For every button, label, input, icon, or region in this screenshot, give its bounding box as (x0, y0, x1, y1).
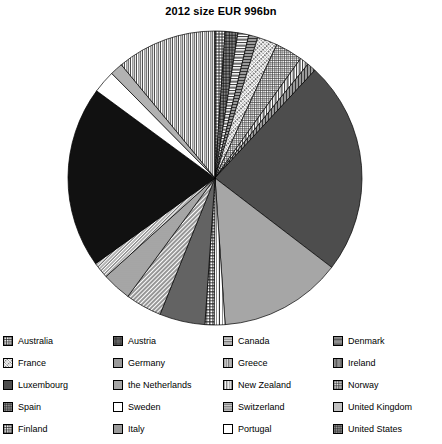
legend-swatch (113, 402, 123, 412)
legend-item[interactable]: United States (333, 418, 442, 440)
legend-item[interactable]: Denmark (333, 330, 442, 352)
legend-swatch (3, 336, 13, 346)
legend-label: Luxembourg (18, 380, 68, 391)
legend-item[interactable]: Greece (223, 352, 333, 374)
legend-swatch (113, 358, 123, 368)
legend-item[interactable]: Switzerland (223, 396, 333, 418)
legend-label: Switzerland (238, 402, 285, 413)
legend-label: Canada (238, 336, 270, 347)
legend-label: Greece (238, 358, 268, 369)
legend-label: Sweden (128, 402, 161, 413)
legend-label: New Zealand (238, 380, 291, 391)
legend-label: Australia (18, 336, 53, 347)
legend-item[interactable]: Finland (3, 418, 113, 440)
legend-label: Denmark (348, 336, 385, 347)
pie-slice-group (68, 31, 362, 325)
legend-swatch (223, 336, 233, 346)
legend-item[interactable]: France (3, 352, 113, 374)
legend-item[interactable]: Canada (223, 330, 333, 352)
legend-item[interactable]: United Kingdom (333, 396, 442, 418)
legend-label: Norway (348, 380, 379, 391)
legend-label: Italy (128, 424, 145, 435)
legend-label: Germany (128, 358, 165, 369)
chart-legend: AustraliaAustriaCanadaDenmarkFranceGerma… (0, 330, 442, 444)
pie-chart-figure: 2012 size EUR 996bn AustraliaAustriaCana… (0, 0, 442, 444)
chart-title: 2012 size EUR 996bn (0, 5, 442, 17)
legend-item[interactable]: Australia (3, 330, 113, 352)
pie-plot-area (0, 22, 442, 332)
legend-item[interactable]: Ireland (333, 352, 442, 374)
legend-swatch (3, 402, 13, 412)
legend-item[interactable]: Germany (113, 352, 223, 374)
legend-swatch (223, 380, 233, 390)
legend-item[interactable]: Luxembourg (3, 374, 113, 396)
legend-item[interactable]: Portugal (223, 418, 333, 440)
legend-swatch (113, 380, 123, 390)
legend-label: United States (348, 424, 402, 435)
legend-item[interactable]: Norway (333, 374, 442, 396)
legend-swatch (113, 336, 123, 346)
legend-swatch (333, 402, 343, 412)
legend-swatch (333, 424, 343, 434)
legend-swatch (3, 358, 13, 368)
legend-swatch (223, 402, 233, 412)
legend-swatch (113, 424, 123, 434)
legend-label: France (18, 358, 46, 369)
legend-swatch (223, 358, 233, 368)
legend-item[interactable]: the Netherlands (113, 374, 223, 396)
legend-swatch (333, 336, 343, 346)
legend-label: Finland (18, 424, 48, 435)
legend-label: Ireland (348, 358, 376, 369)
legend-swatch (333, 380, 343, 390)
legend-label: Portugal (238, 424, 272, 435)
legend-item[interactable]: Spain (3, 396, 113, 418)
pie-svg (0, 22, 442, 332)
legend-label: Austria (128, 336, 156, 347)
legend-swatch (223, 424, 233, 434)
legend-item[interactable]: Austria (113, 330, 223, 352)
legend-item[interactable]: Sweden (113, 396, 223, 418)
legend-item[interactable]: Italy (113, 418, 223, 440)
legend-item[interactable]: New Zealand (223, 374, 333, 396)
legend-swatch (3, 380, 13, 390)
legend-swatch (3, 424, 13, 434)
legend-label: the Netherlands (128, 380, 192, 391)
legend-label: Spain (18, 402, 41, 413)
legend-label: United Kingdom (348, 402, 412, 413)
legend-swatch (333, 358, 343, 368)
